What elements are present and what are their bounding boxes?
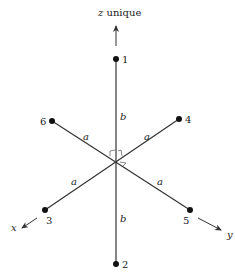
atom-4 [176, 116, 182, 122]
bond-label-bottom-b: b [120, 213, 126, 224]
atom-5-label: 5 [183, 215, 189, 226]
bond-label-upper-left-a: a [83, 131, 89, 142]
bond-label-lower-right-a: a [157, 176, 163, 187]
bond-4-3 [45, 119, 179, 210]
atom-3 [42, 207, 48, 213]
right-angle-mark-top [118, 150, 122, 156]
atom-4-label: 4 [185, 114, 191, 125]
atom-1-label: 1 [122, 54, 128, 65]
bond-label-upper-right-a: a [144, 131, 150, 142]
atom-6 [49, 118, 55, 124]
x-axis-arrow [22, 218, 37, 228]
octahedral-coordination-diagram: z unique x y 1 2 3 4 5 6 b b a a a a [0, 0, 235, 273]
atom-2-label: 2 [122, 259, 128, 270]
z-axis-title: z unique [97, 7, 141, 18]
atom-2 [113, 261, 119, 267]
atom-5 [187, 207, 193, 213]
y-axis-label: y [226, 229, 233, 240]
atom-6-label: 6 [40, 116, 46, 127]
y-axis-arrow [198, 218, 221, 230]
right-angle-mark-left [110, 150, 115, 156]
bond-6-5 [52, 121, 190, 210]
bond-label-lower-left-a: a [71, 176, 77, 187]
bond-label-top-b: b [120, 111, 126, 122]
atom-1 [113, 56, 119, 62]
x-axis-label: x [11, 222, 17, 233]
atom-3-label: 3 [46, 215, 52, 226]
